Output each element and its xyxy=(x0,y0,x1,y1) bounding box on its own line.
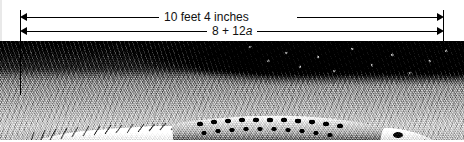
dimension-row-measurement: 10 feet 4 inches xyxy=(20,12,444,23)
dimension-row-expression: 8 + 12a xyxy=(20,26,444,37)
expression-coefficient-text: 8 + 12 xyxy=(212,24,246,38)
dimension-line-left xyxy=(22,17,162,18)
dimension-label-expression: 8 + 12a xyxy=(207,23,257,39)
dimension-line-left xyxy=(22,31,210,32)
dimension-line-right xyxy=(297,17,442,18)
alligator-length-figure: 10 feet 4 inches 8 + 12a xyxy=(0,0,464,142)
alligator-photo xyxy=(0,41,464,140)
dimension-line-right xyxy=(252,31,442,32)
expression-variable-text: a xyxy=(246,24,253,38)
halftone-grain xyxy=(0,41,464,140)
